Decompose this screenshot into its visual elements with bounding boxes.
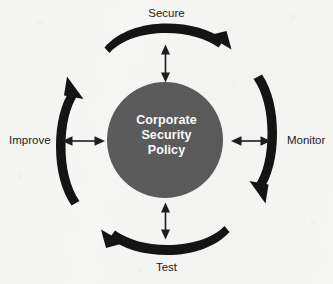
- stage-label-secure: Secure: [0, 7, 333, 20]
- arc-monitor-body: [254, 75, 278, 191]
- arc-secure: [105, 24, 232, 54]
- connector-improve: [62, 136, 105, 146]
- stage-label-improve: Improve: [9, 134, 51, 147]
- stage-label-test: Test: [0, 261, 333, 274]
- diagram-canvas: Corporate Security Policy Secure Monitor…: [0, 0, 333, 284]
- hub-circle: [107, 82, 223, 198]
- stage-label-monitor: Monitor: [287, 134, 325, 147]
- arc-monitor-arrowhead: [250, 181, 269, 204]
- arc-improve-body: [56, 90, 80, 206]
- connector-monitor: [231, 136, 271, 146]
- arc-improve-arrowhead: [64, 77, 84, 100]
- connector-secure: [161, 45, 170, 83]
- connector-test: [161, 203, 170, 240]
